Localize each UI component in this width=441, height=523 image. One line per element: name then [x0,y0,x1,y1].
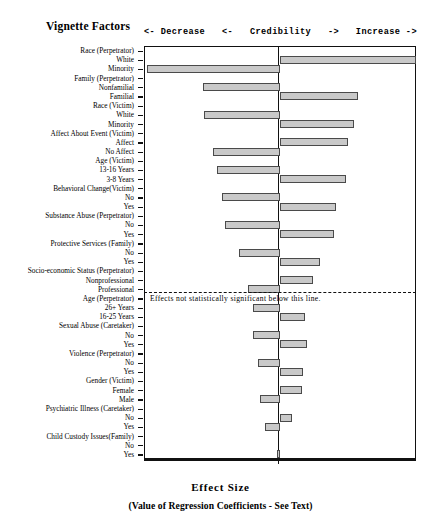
bar [280,276,313,284]
bar [280,230,334,238]
y-axis-tick [138,115,143,116]
y-axis-tick [138,436,143,437]
y-axis-tick [138,253,143,254]
y-axis-tick [138,161,143,162]
y-axis-tick [138,216,143,217]
y-axis-tick [138,298,143,299]
credibility-header: <- Decrease <- Credibility -> Increase -… [144,27,417,37]
page-title: Vignette Factors [46,20,130,32]
decrease-label: <- Decrease [144,27,205,37]
y-axis-label: Child Custody Issues(Family) [46,431,134,442]
credibility-label: Credibility [250,27,311,37]
significance-note: Effects not statistically significant be… [150,294,412,303]
bar-series [144,46,416,459]
y-axis-tick [138,60,143,61]
y-axis-tick [138,427,143,428]
y-axis-tick [138,335,143,336]
y-axis-tick [138,381,143,382]
y-axis-tick [138,179,143,180]
y-axis-label: Substance Abuse (Perpetrator) [45,210,134,221]
x-axis-title: Effect Size [0,481,441,493]
bar [217,166,280,174]
bar [280,56,416,64]
arrow-right-label: -> [328,27,339,37]
y-axis-tick [138,106,143,107]
y-axis-tick [138,317,143,318]
bar [222,193,280,201]
y-axis-tick [138,152,143,153]
y-axis-tick [138,142,143,143]
bar [280,368,303,376]
y-axis-tick [138,170,143,171]
y-axis-tick [138,69,143,70]
y-axis-tick [138,326,143,327]
y-axis-tick [138,78,143,79]
y-axis-tick [138,390,143,391]
bar [280,313,305,321]
bar [280,386,302,394]
y-axis-tick [138,133,143,134]
y-axis-tick [138,308,143,309]
bar [280,120,354,128]
bar [277,450,280,458]
x-axis-line [144,459,416,461]
bar [225,221,280,229]
bar [203,83,280,91]
bar [147,65,280,73]
bar [213,148,280,156]
y-axis-tick [138,399,143,400]
y-axis-tick [138,445,143,446]
y-axis-labels: Race (Perpetrator)WhiteMinorityFamily (P… [0,46,142,459]
increase-label: Increase -> [356,27,417,37]
y-axis-tick [138,262,143,263]
y-axis-tick [138,289,143,290]
y-axis-label: Behavioral Change(Victim) [53,183,134,194]
bar [253,304,280,312]
y-axis-label: Protective Services (Family) [51,238,135,249]
bar [258,359,280,367]
bar [280,414,292,422]
bar [280,92,358,100]
y-axis-label: Psychiatric Illness (Caretaker) [46,403,134,414]
bar [280,175,346,183]
bar [204,111,280,119]
y-axis-tick [138,207,143,208]
y-axis-tick [138,353,143,354]
bar [265,423,280,431]
y-axis-tick [138,87,143,88]
significance-divider [144,292,416,293]
y-axis-tick [138,96,143,97]
y-axis-tick [138,124,143,125]
y-axis-tick [138,454,143,455]
y-axis-tick [138,344,143,345]
bar [253,331,280,339]
bar [280,138,348,146]
y-axis-tick [138,409,143,410]
y-axis-tick [138,271,143,272]
bar [280,340,307,348]
bar [260,395,280,403]
bar [280,258,320,266]
bar [280,203,336,211]
bar [239,249,280,257]
y-axis-tick [138,197,143,198]
y-axis-tick [138,188,143,189]
y-axis-tick [138,243,143,244]
y-axis-tick [138,418,143,419]
arrow-left-label: <- [222,27,233,37]
y-axis-label: Sexual Abuse (Caretaker) [59,320,134,331]
y-axis-tick [138,51,143,52]
y-axis-label: Yes [123,449,134,460]
y-axis-tick [138,225,143,226]
y-axis-tick [138,280,143,281]
y-axis-tick [138,234,143,235]
chart-root: Vignette Factors <- Decrease <- Credibil… [0,0,441,523]
y-axis-tick [138,372,143,373]
x-axis-subtitle: (Value of Regression Coefficients - See … [0,500,441,511]
y-axis-tick [138,363,143,364]
